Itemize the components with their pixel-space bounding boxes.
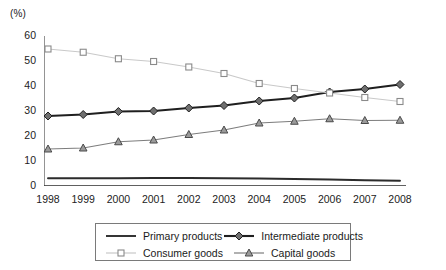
series-intermediate (44, 81, 404, 121)
chart-legend: Primary productsIntermediate productsCon… (95, 223, 351, 261)
y-tick-label: 0 (10, 179, 36, 191)
legend-label: Primary products (143, 230, 222, 242)
series-capital (44, 115, 404, 152)
legend-swatch-primary (104, 230, 138, 242)
legend-item-primary: Primary products (104, 230, 222, 242)
series-consumer (45, 46, 403, 105)
y-tick-label: 60 (10, 29, 36, 41)
legend-item-intermediate: Intermediate products (222, 230, 363, 242)
legend-item-consumer: Consumer goods (104, 247, 232, 259)
legend-swatch-intermediate (222, 230, 256, 242)
x-tick-label: 2008 (378, 193, 422, 205)
series-primary (48, 178, 400, 181)
legend-row: Primary productsIntermediate products (104, 229, 342, 243)
axis-lines (44, 36, 406, 186)
plot-svg (44, 36, 406, 186)
legend-label: Intermediate products (261, 230, 363, 242)
plot-area (44, 36, 406, 186)
y-axis-unit-label: (%) (10, 8, 26, 19)
line-chart: (%) 0102030405060 1998199920002001200220… (0, 0, 446, 270)
y-tick-label: 20 (10, 129, 36, 141)
y-tick-label: 50 (10, 54, 36, 66)
legend-label: Consumer goods (143, 247, 223, 259)
y-tick-label: 40 (10, 79, 36, 91)
legend-swatch-consumer (104, 247, 138, 259)
y-tick-label: 30 (10, 104, 36, 116)
legend-item-capital: Capital goods (232, 247, 335, 259)
legend-label: Capital goods (271, 247, 335, 259)
y-tick-label: 10 (10, 154, 36, 166)
legend-row: Consumer goodsCapital goods (104, 246, 342, 260)
legend-swatch-capital (232, 247, 266, 259)
